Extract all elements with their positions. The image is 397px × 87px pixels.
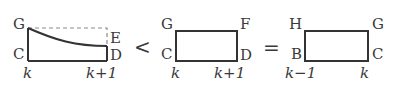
figure-1-point-e-label: E (110, 31, 121, 46)
figure-3-axis-label-left: k−1 (285, 66, 316, 81)
equals-operator: = (263, 38, 280, 58)
figure-1-region-under-curve (28, 28, 107, 61)
figure-1-axis-label-left: k (23, 66, 32, 81)
figure-1-point-g-label: G (13, 17, 25, 32)
figure-2-axis-label-left: k (171, 66, 180, 81)
figure-3-rectangle-hgcb (305, 31, 368, 61)
figure-2-axis-label-right: k+1 (214, 66, 245, 81)
figure-3-point-b-label: B (291, 47, 302, 62)
figure-3-point-h-label: H (289, 17, 302, 32)
figure-2-point-g-label: G (161, 17, 173, 32)
diagram-canvas (0, 0, 397, 87)
figure-1-decreasing-curve (28, 28, 107, 46)
figure-3-point-g-label: G (372, 17, 384, 32)
figure-2-rectangle-gfdc (176, 31, 237, 61)
less-than-operator: < (134, 37, 151, 57)
figure-3-point-c-label: C (372, 47, 383, 62)
figure-1-point-d-label: D (110, 48, 122, 63)
figure-1-point-c-label: C (13, 47, 24, 62)
figure-2-point-d-label: D (240, 48, 252, 63)
figure-2-point-c-label: C (161, 47, 172, 62)
figure-1-axis-label-right: k+1 (86, 66, 117, 81)
figure-3-axis-label-right: k (360, 66, 369, 81)
figure-2-point-f-label: F (240, 17, 250, 32)
